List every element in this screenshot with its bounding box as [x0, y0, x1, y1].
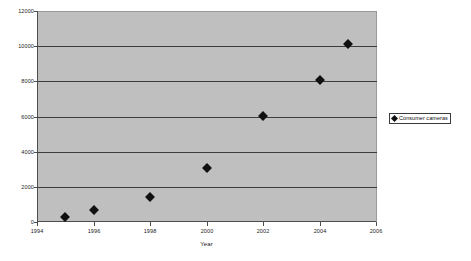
y-axis-tick-label: 6000 [21, 114, 34, 120]
y-axis-tick-label: 0 [31, 219, 34, 225]
y-axis-tick [34, 46, 38, 47]
x-axis-tick [376, 222, 377, 226]
y-axis-tick [34, 117, 38, 118]
y-axis-tick [34, 81, 38, 82]
y-axis-tick [34, 152, 38, 153]
y-axis-tick-label: 8000 [21, 78, 34, 84]
x-axis-tick [94, 222, 95, 226]
y-axis-tick-label: 10000 [18, 43, 34, 49]
x-axis-tick [263, 222, 264, 226]
legend-item-label: Consumer cameras [399, 115, 448, 122]
gridline [37, 81, 377, 82]
y-axis-tick-label: 12000 [18, 8, 34, 14]
x-axis-tick [37, 222, 38, 226]
x-axis-tick-label: 2000 [201, 228, 214, 235]
y-axis-tick-label: 4000 [21, 149, 34, 155]
diamond-marker-icon [391, 115, 398, 122]
gridline [37, 187, 377, 188]
chart-legend: Consumer cameras [389, 113, 451, 124]
x-axis-tick-label: 1994 [31, 228, 44, 235]
gridline [37, 117, 377, 118]
x-axis-tick [320, 222, 321, 226]
scatter-chart: 020004000600080001000012000 199419961998… [0, 0, 471, 261]
x-axis-tick-label: 2006 [370, 228, 383, 235]
y-axis-tick-label: 2000 [21, 184, 34, 190]
x-axis-tick-label: 2002 [257, 228, 270, 235]
y-axis-tick [34, 11, 38, 12]
gridline [37, 152, 377, 153]
x-axis-tick-label: 2004 [314, 228, 327, 235]
gridline [37, 46, 377, 47]
x-axis-tick-label: 1996 [88, 228, 101, 235]
x-axis-tick-label: 1998 [144, 228, 157, 235]
plot-top-border [37, 11, 377, 12]
x-axis-tick [207, 222, 208, 226]
x-axis-tick [150, 222, 151, 226]
y-axis-tick [34, 187, 38, 188]
x-axis-title: Year [0, 241, 413, 247]
